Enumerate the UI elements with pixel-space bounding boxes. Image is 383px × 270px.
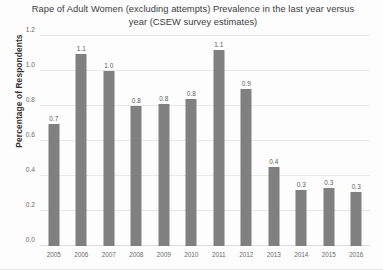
bar-group: 0.82008 (123, 36, 151, 246)
bar-value-label: 0.3 (297, 181, 306, 188)
y-axis-tick-label: 0.4 (26, 166, 35, 173)
bar-group: 0.32015 (315, 36, 343, 246)
y-axis-tick-label: 0.6 (26, 131, 35, 138)
bar-value-label: 0.3 (352, 183, 361, 190)
x-axis-tick-label: 2013 (267, 251, 281, 258)
bar (296, 190, 307, 246)
x-axis-tick-label: 2011 (212, 251, 226, 258)
bar (351, 192, 362, 246)
plot-area: 0.00.20.40.60.81.01.2 0.720051.120061.02… (40, 36, 370, 246)
bar-group: 1.12006 (68, 36, 96, 246)
x-axis-tick-label: 2010 (184, 251, 198, 258)
bar-value-label: 1.1 (214, 41, 223, 48)
bar-group: 0.32014 (288, 36, 316, 246)
x-axis-tick-label: 2016 (349, 251, 363, 258)
x-axis-tick-label: 2015 (322, 251, 336, 258)
x-axis-tick-label: 2012 (239, 251, 253, 258)
bar-chart-figure: Rape of Adult Women (excluding attempts)… (0, 0, 383, 270)
bar (48, 124, 59, 247)
x-axis-tick-label: 2005 (47, 251, 61, 258)
x-axis-tick-label: 2007 (102, 251, 116, 258)
bar-group: 0.92012 (233, 36, 261, 246)
y-axis-tick-label: 1.0 (26, 61, 35, 68)
bar (186, 99, 197, 246)
bar (103, 71, 114, 246)
bar (76, 54, 87, 247)
y-axis-tick-label: 0.0 (26, 236, 35, 243)
bar-group: 0.32016 (343, 36, 371, 246)
x-axis-tick-label: 2006 (74, 251, 88, 258)
x-axis-tick-label: 2014 (294, 251, 308, 258)
y-axis-tick-label: 1.2 (26, 26, 35, 33)
x-axis-tick-label: 2009 (157, 251, 171, 258)
bar-series: 0.720051.120061.020070.820080.820090.820… (40, 36, 370, 246)
x-axis-tick-label: 2008 (129, 251, 143, 258)
bar (241, 89, 252, 247)
bar-group: 1.02007 (95, 36, 123, 246)
bar-value-label: 0.7 (49, 115, 58, 122)
bar-value-label: 0.3 (324, 179, 333, 186)
bar-value-label: 0.8 (132, 97, 141, 104)
bar (323, 188, 334, 246)
bar-value-label: 0.4 (269, 158, 278, 165)
chart-title: Rape of Adult Women (excluding attempts)… (28, 3, 358, 28)
bar-group: 0.82010 (178, 36, 206, 246)
bar-value-label: 1.1 (77, 45, 86, 52)
bar-value-label: 0.8 (159, 95, 168, 102)
bar (213, 50, 224, 246)
bar-group: 0.42013 (260, 36, 288, 246)
y-axis-tick-label: 0.2 (26, 201, 35, 208)
bar-group: 1.12011 (205, 36, 233, 246)
bar-value-label: 0.8 (187, 90, 196, 97)
y-axis-tick-label: 0.8 (26, 96, 35, 103)
bar-value-label: 0.9 (242, 80, 251, 87)
bar-group: 0.82009 (150, 36, 178, 246)
bar-group: 0.72005 (40, 36, 68, 246)
bar-value-label: 1.0 (104, 62, 113, 69)
bar (268, 167, 279, 246)
y-axis-title: Percentage of Respondents (14, 16, 24, 166)
bar (131, 106, 142, 246)
bar (158, 104, 169, 246)
